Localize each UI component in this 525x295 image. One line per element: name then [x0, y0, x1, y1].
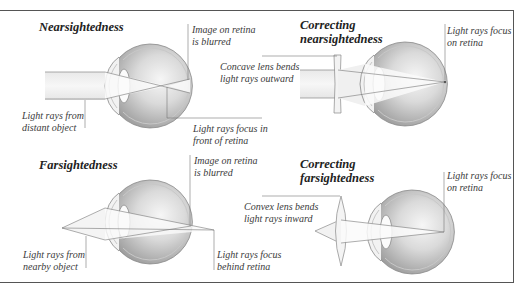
label-convex-lens: Convex lens bends light rays inward [244, 201, 318, 224]
title-farsightedness: Farsightedness [39, 158, 118, 172]
label-focus-on-retina-far: Light rays focus on retina [447, 170, 511, 193]
title-nearsightedness: Nearsightedness [39, 20, 124, 34]
title-correcting-farsightedness: Correcting farsightedness [300, 157, 374, 185]
label-nearby-object: Light rays from nearby object [23, 249, 85, 272]
label-focus-behind: Light rays focus behind retina [217, 249, 281, 272]
label-distant-object: Light rays from distant object [22, 110, 84, 133]
title-correcting-nearsightedness: Correcting nearsightedness [300, 18, 383, 46]
label-concave-lens: Concave lens bends light rays outward [220, 61, 299, 84]
label-image-blurred-far: Image on retina is blurred [194, 155, 258, 178]
label-focus-front: Light rays focus in front of retina [193, 123, 268, 146]
label-image-blurred: Image on retina is blurred [192, 24, 256, 47]
vision-correction-diagram: Nearsightedness Image on retina is blurr… [0, 0, 525, 295]
label-focus-on-retina: Light rays focus on retina [447, 25, 511, 48]
